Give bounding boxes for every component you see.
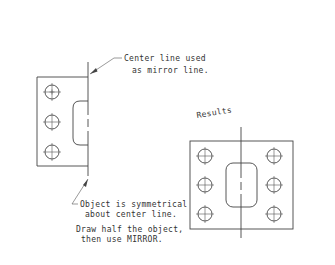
hole-r1 bbox=[265, 147, 283, 165]
full-slot bbox=[226, 163, 257, 207]
mirrored-object bbox=[190, 127, 293, 238]
hole-2 bbox=[43, 113, 61, 131]
hole-r3 bbox=[265, 205, 283, 223]
hole-1 bbox=[43, 83, 61, 101]
hole-l3 bbox=[196, 205, 214, 223]
hole-3 bbox=[43, 143, 61, 161]
hole-l1 bbox=[196, 147, 214, 165]
hole-r2 bbox=[265, 176, 283, 194]
instruction-label-1: Draw half the object, bbox=[76, 225, 183, 234]
center-line-leader bbox=[90, 58, 122, 74]
half-slot bbox=[73, 101, 88, 145]
center-line-label-2: as mirror line. bbox=[132, 66, 209, 75]
symmetry-label-2: about center line. bbox=[85, 210, 177, 219]
half-object bbox=[37, 62, 88, 176]
center-line-label-1: Center line used bbox=[124, 54, 206, 63]
hole-l2 bbox=[196, 176, 214, 194]
results-label: Results bbox=[196, 105, 233, 119]
mirror-diagram: Center line used as mirror line. Object … bbox=[0, 0, 335, 265]
symmetry-label-1: Object is symmetrical bbox=[80, 200, 187, 209]
instruction-label-2: then use MIRROR. bbox=[81, 235, 163, 244]
